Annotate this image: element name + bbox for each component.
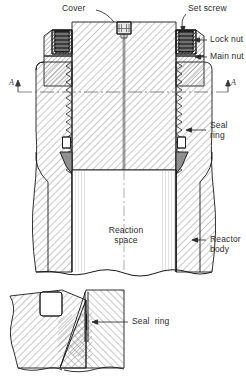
set-screw-right <box>179 31 193 52</box>
section-mark-left: A <box>9 78 14 87</box>
seal-ring-detail-view <box>10 290 124 372</box>
label-seal-ring-upper-line2: ring <box>210 131 225 141</box>
section-arrow-left <box>16 80 21 92</box>
label-reactor-body-line2: body <box>210 245 229 255</box>
cover-part <box>72 22 176 170</box>
label-seal-ring-detail: Seal ring <box>132 317 169 327</box>
reactor-closure-figure: Cover Set screw Lock nut Main nut Seal r… <box>0 0 246 388</box>
section-arrow-right <box>226 80 231 92</box>
label-main-nut: Main nut <box>210 52 244 62</box>
section-mark-right: A <box>231 78 236 87</box>
label-reaction-space-line2: space <box>98 236 154 246</box>
label-cover: Cover <box>62 4 85 14</box>
set-screw-left <box>55 31 69 52</box>
label-lock-nut: Lock nut <box>210 35 243 45</box>
label-set-screw: Set screw <box>188 4 227 14</box>
reactor-body-left <box>32 62 72 272</box>
